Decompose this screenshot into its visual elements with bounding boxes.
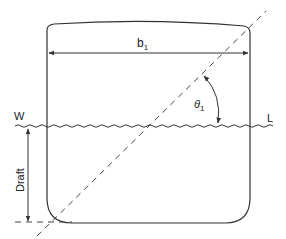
heel-angle-arc — [204, 76, 219, 123]
waterline-wavy — [15, 125, 273, 128]
draft-label: Draft — [14, 168, 26, 192]
waterline-left-label: W — [14, 110, 25, 122]
heel-angle-label: θ1 — [194, 98, 205, 113]
hull-outline — [47, 21, 250, 223]
inclined-dashed-line — [37, 11, 266, 236]
ship-section-diagram: b1 W L θ1 Draft — [0, 0, 286, 239]
waterline-right-label: L — [267, 112, 273, 124]
beam-label: b1 — [137, 36, 149, 52]
